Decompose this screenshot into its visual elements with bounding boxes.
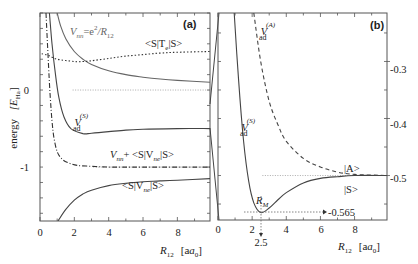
vne-b: |S> [150, 180, 164, 191]
vad-a-sub: ad [259, 33, 267, 42]
b-xlabel: R12[aa0] [337, 240, 380, 255]
vad-sup: (S) [80, 112, 89, 120]
vnnvne-rest: + <S|V [123, 149, 153, 160]
b-ytick-0.4: -0.4 [390, 119, 407, 130]
vad-sub: ad [73, 124, 81, 133]
te-a: <S|T [145, 38, 166, 49]
b-xtick-4: 4 [283, 224, 289, 235]
panel-a-label: (a) [183, 18, 197, 30]
b-xtick-0: 0 [215, 224, 220, 235]
curve-v-ad-a- [254, 13, 387, 176]
ylabel-text: energy [7, 118, 19, 148]
a-ytick-0: 0 [24, 85, 29, 96]
vad-s-sup: (S) [247, 117, 256, 125]
ylabel-unit-open: [E [7, 99, 19, 110]
panel-b: (b) -0.3 -0.4 -0.5 0 2 4 6 8 R12[aa0] -0… [215, 13, 407, 255]
a-ylabel: energy [EHa] [7, 87, 22, 148]
label-te: <S|Te|S> [145, 38, 182, 52]
label-vnn: Vnn=e2/R12 [70, 24, 114, 40]
xlabel-unit-close: ] [198, 244, 202, 256]
label-vnn-vne: Vnn+ <S|Vne|S> [110, 149, 174, 163]
a-xtick-6: 6 [140, 227, 145, 238]
min-arrow-right-icon [323, 210, 327, 215]
figure: (a) 0 -1 0 2 4 6 8 energy [EHa] R12[aa0]… [0, 0, 418, 264]
ylabel-unit-close: ] [7, 87, 19, 91]
curve--s-t-e-s- [42, 52, 210, 62]
vnn-rest: =e [83, 26, 94, 37]
label-vad-s-a: V(S)ad [73, 112, 89, 133]
a-xlabel: R12[aa0] [159, 244, 202, 259]
rm-sub: M [261, 201, 269, 209]
b-xlabel-unit-open: [a [359, 240, 368, 252]
a-xtick-0: 0 [37, 227, 42, 238]
b-xtick-6: 6 [318, 224, 323, 235]
panel-b-label: (b) [370, 19, 384, 31]
vad-a-sup: (A) [266, 21, 276, 29]
panel-a: (a) 0 -1 0 2 4 6 8 energy [EHa] R12[aa0]… [7, 13, 210, 259]
b-xtick-8: 8 [352, 224, 357, 235]
label-rm: RM [255, 195, 269, 209]
vnnvne-sub2: ne [153, 155, 160, 163]
label-ket-a: |A> [344, 163, 360, 174]
vad-s-sub: ad [240, 129, 248, 138]
label-vne: <S|Vne|S> [122, 180, 164, 194]
panel-b-frame [218, 13, 387, 220]
vnn-tail: /R [97, 26, 108, 37]
label-vad-a: V(A)ad [259, 21, 276, 42]
te-b: |S> [168, 38, 182, 49]
svg-text:energy [EHa]: energy [EHa] [7, 87, 22, 148]
xlabel-sub: 12 [167, 251, 175, 259]
min-value-label: -0.565 [328, 207, 355, 218]
vne-a: <S|V [122, 180, 144, 191]
a-xtick-4: 4 [106, 227, 112, 238]
min-position-label: 2.5 [254, 237, 267, 248]
vnnvne-tail: |S> [160, 149, 174, 160]
vne-sub: ne [143, 186, 150, 194]
a-xtick-8: 8 [175, 227, 180, 238]
b-xtick-2: 2 [249, 224, 254, 235]
b-xlabel-unit-close: ] [376, 240, 380, 252]
a-xtick-2: 2 [71, 227, 76, 238]
label-vad-s-b: V(S)ad [240, 117, 256, 138]
b-ytick-0.3: -0.3 [390, 64, 407, 75]
vnn-tailsub: 12 [107, 32, 115, 40]
b-ytick-0.5: -0.5 [390, 173, 407, 184]
panel-b-ticks [218, 13, 390, 220]
curve-v-ad-s- [234, 13, 387, 213]
panel-b-curves [234, 13, 387, 213]
a-ytick-neg1: -1 [20, 162, 29, 173]
xlabel-unit-open: [a [181, 244, 190, 256]
b-xlabel-sub: 12 [345, 247, 353, 255]
label-ket-s: |S> [344, 184, 358, 195]
